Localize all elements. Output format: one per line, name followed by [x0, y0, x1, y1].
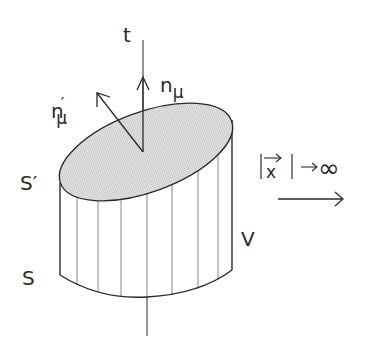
svg-text:x: x: [266, 162, 276, 182]
time-axis-label: t: [123, 23, 131, 47]
volume-label: V: [241, 227, 255, 251]
normal-label: nμ: [160, 73, 184, 102]
spacetime-cylinder-diagram: t nμ n′μ S′ S V x ∞: [0, 0, 369, 348]
top-surface-label: S′: [20, 171, 38, 195]
normal-prime-label: n′μ: [51, 94, 67, 128]
spatial-infinity-label: x ∞: [261, 153, 340, 183]
spatial-direction-arrow: [278, 192, 343, 206]
bottom-surface-label: S: [22, 266, 35, 290]
svg-text:∞: ∞: [318, 153, 340, 183]
